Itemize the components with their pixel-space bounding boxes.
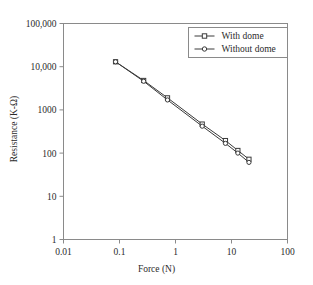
legend-label: Without dome xyxy=(222,44,276,54)
figure: 0.010.1110100 110100100010,000100,000 Wi… xyxy=(0,0,313,285)
x-tick-label: 0.01 xyxy=(55,247,72,257)
y-tick-label: 10,000 xyxy=(30,62,56,72)
data-point-circle xyxy=(223,141,227,145)
x-tick-label: 100 xyxy=(280,247,295,257)
x-tick-label: 10 xyxy=(227,247,237,257)
chart-canvas: 0.010.1110100 110100100010,000100,000 Wi… xyxy=(0,0,313,285)
y-tick-label: 1000 xyxy=(38,105,57,115)
data-point-square xyxy=(202,34,206,38)
x-axis-ticks xyxy=(64,240,288,244)
data-point-circle xyxy=(165,98,169,102)
data-point-circle xyxy=(200,124,204,128)
x-tick-label: 0.1 xyxy=(114,247,126,257)
data-point-circle xyxy=(247,160,251,164)
x-axis-tick-labels: 0.010.1110100 xyxy=(55,247,295,257)
y-axis-ticks xyxy=(60,24,64,240)
y-tick-label: 100,000 xyxy=(26,19,57,29)
y-tick-label: 10 xyxy=(47,192,57,202)
chart-legend: With domeWithout dome xyxy=(189,28,288,58)
data-point-circle xyxy=(202,47,206,51)
x-tick-label: 1 xyxy=(173,247,178,257)
y-axis-tick-labels: 110100100010,000100,000 xyxy=(26,19,57,245)
data-point-circle xyxy=(113,60,117,64)
y-tick-label: 100 xyxy=(42,149,57,159)
y-axis-title: Resistance (K-Ω) xyxy=(9,69,19,189)
data-point-circle xyxy=(236,151,240,155)
legend-label: With dome xyxy=(222,31,264,41)
y-tick-label: 1 xyxy=(52,235,57,245)
x-axis-title: Force (N) xyxy=(0,264,313,274)
data-point-circle xyxy=(142,79,146,83)
